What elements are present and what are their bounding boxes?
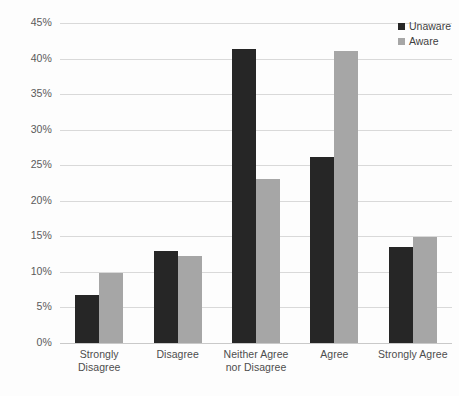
bar-unaware bbox=[232, 49, 256, 343]
bar-unaware bbox=[310, 157, 334, 343]
bar-aware bbox=[99, 273, 123, 343]
x-axis: Strongly DisagreeDisagreeNeither Agree n… bbox=[60, 348, 452, 394]
y-axis-tick-label: 25% bbox=[12, 158, 52, 170]
bar-unaware bbox=[154, 251, 178, 343]
legend-swatch-icon bbox=[398, 38, 405, 45]
legend-label: Unaware bbox=[409, 20, 451, 32]
y-axis-tick-label: 40% bbox=[12, 52, 52, 64]
y-axis-tick-label: 0% bbox=[12, 336, 52, 348]
legend-entry: Aware bbox=[398, 35, 451, 47]
gridline bbox=[60, 343, 452, 344]
y-axis-tick-label: 45% bbox=[12, 16, 52, 28]
y-axis-tick-label: 20% bbox=[12, 194, 52, 206]
x-axis-tick-label: Disagree bbox=[138, 348, 216, 361]
bar-unaware bbox=[389, 247, 413, 343]
bar-group bbox=[389, 23, 437, 343]
y-axis-tick-label: 30% bbox=[12, 123, 52, 135]
bar-aware bbox=[178, 256, 202, 343]
x-axis-tick-label: Strongly Disagree bbox=[60, 348, 138, 374]
y-axis: 45%40%35%30%25%20%15%10%5%0% bbox=[0, 0, 52, 396]
bar-group bbox=[310, 23, 358, 343]
bar-group bbox=[154, 23, 202, 343]
bar-aware bbox=[413, 237, 437, 343]
legend-swatch-icon bbox=[398, 23, 405, 30]
bar-group bbox=[232, 23, 280, 343]
bar-group bbox=[75, 23, 123, 343]
y-axis-tick-label: 15% bbox=[12, 229, 52, 241]
x-axis-tick-label: Strongly Agree bbox=[374, 348, 452, 361]
legend-label: Aware bbox=[409, 35, 439, 47]
bar-aware bbox=[334, 51, 358, 343]
x-axis-tick-label: Neither Agree nor Disagree bbox=[217, 348, 295, 374]
y-axis-tick-label: 35% bbox=[12, 87, 52, 99]
plot-area bbox=[60, 23, 452, 343]
bar-chart: 45%40%35%30%25%20%15%10%5%0% Strongly Di… bbox=[0, 0, 459, 396]
legend-entry: Unaware bbox=[398, 20, 451, 32]
chart-legend: UnawareAware bbox=[398, 20, 451, 47]
x-axis-tick-label: Agree bbox=[295, 348, 373, 361]
y-axis-tick-label: 10% bbox=[12, 265, 52, 277]
bar-unaware bbox=[75, 295, 99, 343]
bar-aware bbox=[256, 179, 280, 343]
y-axis-tick-label: 5% bbox=[12, 300, 52, 312]
